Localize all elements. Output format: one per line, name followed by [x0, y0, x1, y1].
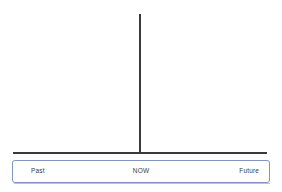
timeline-diagram: Past NOW Future [0, 0, 282, 192]
timeline-label-future: Future [239, 167, 259, 175]
timeline-label-bar: Past NOW Future [12, 160, 270, 183]
now-marker-line [139, 14, 141, 154]
timeline-axis-line [13, 152, 267, 154]
timeline-label-now: NOW [13, 167, 269, 175]
